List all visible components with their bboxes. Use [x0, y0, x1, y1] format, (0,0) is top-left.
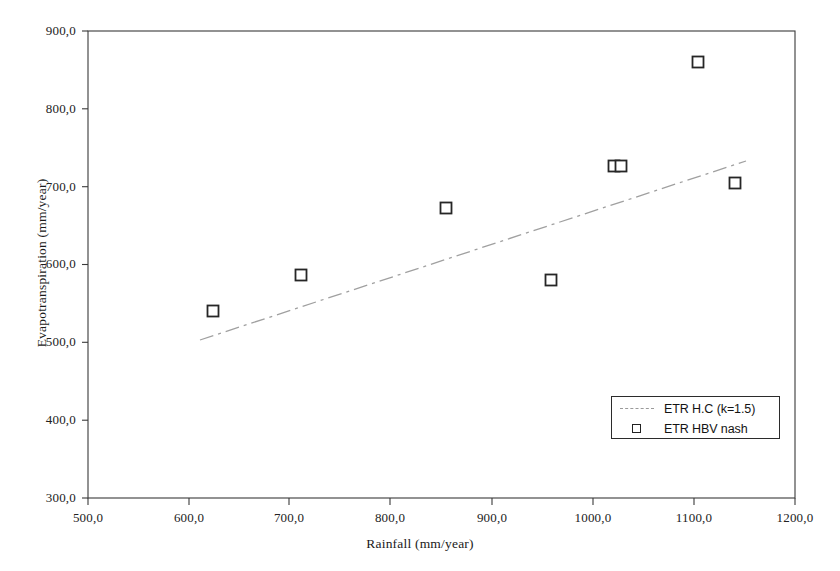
- x-axis-title: Rainfall (mm/year): [0, 536, 840, 552]
- x-tick-label-600: 600,0: [174, 510, 204, 526]
- data-point: [208, 306, 219, 317]
- x-tick-label-900: 900,0: [477, 510, 507, 526]
- y-tick-label-900: 900,0: [14, 23, 76, 39]
- x-tick-label-700: 700,0: [274, 510, 304, 526]
- open-square-key-icon: [612, 420, 664, 438]
- legend-label-etr-hbv-nash: ETR HBV nash: [664, 422, 748, 436]
- legend-label-etr-hc: ETR H.C (k=1.5): [664, 402, 755, 416]
- legend: ETR H.C (k=1.5) ETR HBV nash: [611, 396, 780, 439]
- x-tick-label-1000: 1000,0: [575, 510, 612, 526]
- data-point: [616, 161, 627, 172]
- data-point: [546, 275, 557, 286]
- legend-entry-etr-hbv-nash: ETR HBV nash: [612, 418, 779, 439]
- y-tick-label-300: 300,0: [14, 490, 76, 506]
- y-axis-ticks: [82, 31, 88, 498]
- dash-line-key-icon: [612, 400, 664, 418]
- x-axis-ticks: [88, 498, 795, 505]
- legend-entry-etr-hc: ETR H.C (k=1.5): [612, 398, 779, 419]
- y-axis-title: Evapotranspiration (mm/year): [34, 53, 50, 473]
- x-tick-label-500: 500,0: [73, 510, 103, 526]
- x-tick-label-1200: 1200,0: [777, 510, 814, 526]
- chart-figure: 900,0 800,0 700,0 600,0 500,0 400,0 300,…: [0, 0, 840, 571]
- plot-canvas: [0, 0, 840, 571]
- x-tick-label-800: 800,0: [375, 510, 405, 526]
- data-point: [730, 178, 741, 189]
- data-point: [296, 270, 307, 281]
- x-tick-label-1100: 1100,0: [676, 510, 712, 526]
- data-point: [693, 57, 704, 68]
- data-point: [441, 203, 452, 214]
